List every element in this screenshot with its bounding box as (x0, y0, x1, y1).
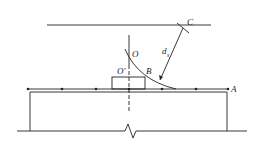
label-c: C (187, 17, 194, 27)
label-o-prime: O′ (117, 66, 126, 76)
label-d-subscript: s (167, 52, 170, 58)
dimension-arrow-icon (159, 75, 163, 80)
label-b: B (146, 66, 152, 76)
small-block (112, 77, 145, 89)
diagram-canvas: C O O′ B A d s (0, 0, 259, 146)
diagram-svg: C O O′ B A d s (0, 0, 259, 146)
label-o: O (132, 49, 139, 59)
label-a: A (230, 84, 237, 94)
ground-line-break (17, 124, 247, 138)
